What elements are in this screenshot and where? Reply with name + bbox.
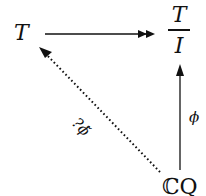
- arrowhead-1-icon: [138, 30, 147, 38]
- label-phi: ϕ: [189, 108, 199, 126]
- node-quotient: T I: [168, 4, 190, 57]
- node-CQ: ℂQ: [162, 176, 198, 196]
- arrowhead-2-icon: [146, 30, 155, 38]
- arrow-phi-tilde: [44, 52, 160, 172]
- node-T: T: [14, 22, 29, 44]
- arrowhead-phi-tilde-icon: [39, 47, 52, 58]
- fraction-bar: [168, 29, 190, 31]
- quotient-numerator: T: [168, 4, 190, 26]
- quotient-denominator: I: [168, 35, 190, 57]
- arrowhead-phi-icon: [176, 64, 184, 76]
